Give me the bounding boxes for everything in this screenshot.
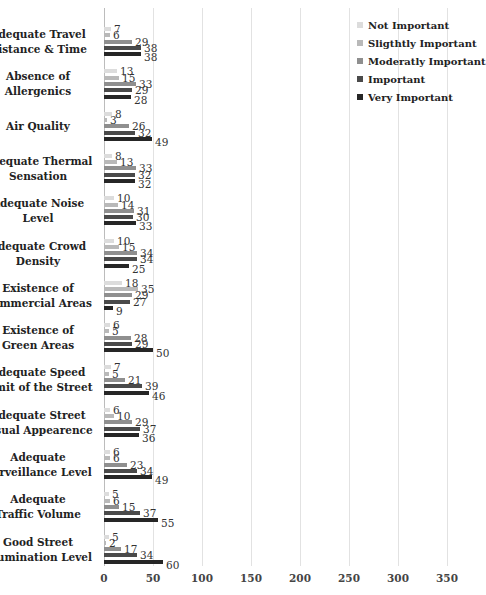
bar: [104, 391, 149, 395]
legend-item: Moderatly Important: [357, 52, 486, 70]
bar: [104, 287, 138, 291]
data-label: 36: [142, 433, 155, 443]
bar: [104, 547, 121, 551]
legend-item: Not Important: [357, 16, 486, 34]
data-label: 50: [156, 348, 169, 358]
x-tick-label: 150: [240, 572, 262, 584]
category-label: Air Quality: [0, 119, 98, 134]
data-label: 28: [134, 95, 147, 105]
bar: [104, 293, 132, 297]
gridline: [251, 8, 252, 566]
x-tick-label: 350: [436, 572, 458, 584]
legend-swatch-icon: [357, 94, 363, 100]
bar: [104, 342, 132, 346]
legend-swatch-icon: [357, 76, 363, 82]
data-label: 27: [133, 297, 146, 307]
bar: [104, 505, 119, 509]
category-label: Absence ofAllergenics: [0, 69, 98, 99]
bar: [104, 131, 135, 135]
bar: [104, 27, 111, 31]
category-label: Adequate SpeedLimit of the Street: [0, 365, 98, 395]
bar: [104, 239, 114, 243]
legend-swatch-icon: [357, 58, 363, 64]
category-label: Adequate ThermalSensation: [0, 154, 98, 184]
bar: [104, 427, 140, 431]
category-label: Existence ofCommercial Areas: [0, 281, 98, 311]
bar: [104, 475, 152, 479]
bar: [104, 518, 158, 522]
category-label: AdequateTraffic Volume: [0, 492, 98, 522]
bar: [104, 264, 129, 268]
bar: [104, 124, 129, 128]
legend-label: Not Important: [368, 20, 449, 31]
data-label: 34: [140, 550, 153, 560]
gridline: [349, 8, 350, 566]
legend-label: Moderatly Important: [368, 56, 486, 67]
bar: [104, 378, 125, 382]
x-tick-label: 200: [289, 572, 311, 584]
data-label: 37: [143, 508, 156, 518]
bar: [104, 40, 132, 44]
data-label: 55: [161, 518, 174, 528]
data-label: 25: [132, 264, 145, 274]
legend-swatch-icon: [357, 22, 363, 28]
bar: [104, 166, 136, 170]
data-label: 33: [139, 221, 152, 231]
bar: [104, 173, 135, 177]
bar: [104, 209, 134, 213]
bar: [104, 511, 140, 515]
bar: [104, 336, 131, 340]
bar: [104, 463, 127, 467]
bar: [104, 414, 114, 418]
bar: [104, 499, 110, 503]
bar: [104, 203, 118, 207]
bar: [104, 456, 110, 460]
legend-item: Very Important: [357, 88, 486, 106]
bar: [104, 365, 111, 369]
x-tick-label: 50: [146, 572, 161, 584]
category-label: Adequate TravelDistance & Time: [0, 27, 98, 57]
bar: [104, 179, 135, 183]
bar: [104, 492, 109, 496]
bar: [104, 196, 114, 200]
x-tick-label: 300: [387, 572, 409, 584]
legend-label: Very Important: [368, 92, 453, 103]
data-label: 6: [113, 453, 120, 463]
gridline: [202, 8, 203, 566]
data-label: 6: [113, 30, 120, 40]
bar: [104, 306, 113, 310]
bar: [104, 88, 132, 92]
bar: [104, 137, 152, 141]
bar: [104, 76, 119, 80]
data-label: 32: [138, 179, 151, 189]
bar: [104, 329, 109, 333]
category-label: Existence ofGreen Areas: [0, 323, 98, 353]
legend-label: Important: [368, 74, 425, 85]
bar: [104, 469, 137, 473]
bar: [104, 82, 136, 86]
bar: [104, 560, 163, 564]
legend-label: Sligthtly Important: [368, 38, 477, 49]
bar: [104, 384, 142, 388]
bar: [104, 160, 117, 164]
bar: [104, 69, 117, 73]
data-label: 38: [144, 52, 157, 62]
bar: [104, 215, 133, 219]
bar: [104, 257, 137, 261]
data-label: 46: [152, 391, 165, 401]
bar: [104, 281, 122, 285]
bar: [104, 221, 136, 225]
x-tick-label: 250: [338, 572, 360, 584]
bar: [104, 372, 109, 376]
bar: [104, 300, 130, 304]
gridline: [300, 8, 301, 566]
legend-item: Important: [357, 70, 486, 88]
bar: [104, 348, 153, 352]
bar: [104, 251, 137, 255]
category-label: AdequateSurveillance Level: [0, 450, 98, 480]
bar: [104, 245, 119, 249]
data-label: 49: [155, 475, 168, 485]
category-label: Adequate NoiseLevel: [0, 196, 98, 226]
data-label: 60: [166, 560, 179, 570]
x-tick-label: 100: [191, 572, 213, 584]
